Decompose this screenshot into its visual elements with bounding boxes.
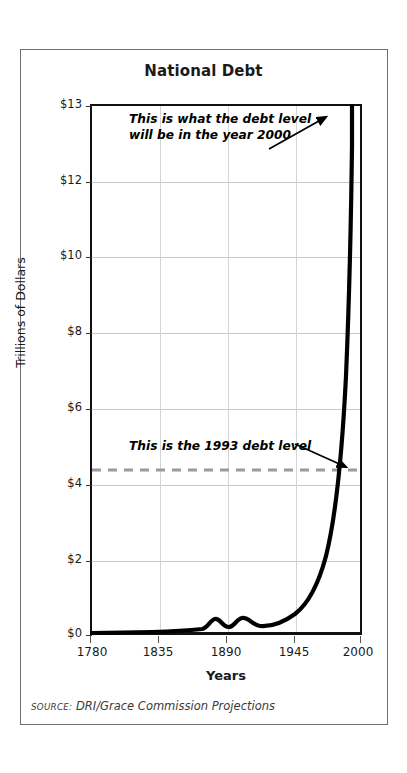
debt-curve — [92, 106, 364, 637]
xtick-mark-1890 — [226, 636, 227, 643]
source-label: SOURCE: — [31, 702, 72, 712]
annotation-level-1993: This is the 1993 debt level — [129, 439, 311, 453]
x-axis-tick-marks — [90, 636, 362, 644]
ytick-mark-6 — [86, 409, 92, 410]
y-axis-title: Trillions of Dollars — [13, 223, 28, 403]
annotation-level-1993-line1: This is the 1993 debt level — [129, 439, 311, 453]
ytick-label-10: $10 — [60, 248, 82, 262]
chart-title: National Debt — [0, 62, 407, 80]
y-axis-tick-labels: $13 $12 $10 $8 $6 $4 $2 $0 — [40, 104, 82, 635]
ytick-mark-2 — [86, 561, 92, 562]
annotation-projection-2000-line2: will be in the year 2000 — [129, 128, 311, 144]
xtick-mark-2000 — [360, 636, 361, 643]
source-note: SOURCE: DRI/Grace Commission Projections — [31, 699, 275, 713]
xtick-label-1780: 1780 — [77, 645, 108, 659]
plot-area: This is what the debt level will be in t… — [90, 104, 362, 635]
xtick-label-2000: 2000 — [343, 645, 374, 659]
ytick-mark-12 — [86, 182, 92, 183]
xtick-label-1835: 1835 — [143, 645, 174, 659]
xtick-label-1945: 1945 — [279, 645, 310, 659]
ytick-mark-13 — [86, 106, 92, 107]
ytick-label-2: $2 — [67, 552, 82, 566]
ytick-label-6: $6 — [67, 400, 82, 414]
ytick-mark-4 — [86, 485, 92, 486]
ytick-mark-8 — [86, 333, 92, 334]
xtick-label-1890: 1890 — [211, 645, 242, 659]
ytick-label-4: $4 — [67, 476, 82, 490]
ytick-label-0: $0 — [67, 626, 82, 640]
xtick-mark-1835 — [158, 636, 159, 643]
x-axis-title: Years — [90, 668, 362, 683]
ytick-mark-10 — [86, 257, 92, 258]
ytick-label-12: $12 — [60, 173, 82, 187]
ytick-label-8: $8 — [67, 324, 82, 338]
xtick-mark-1945 — [294, 636, 295, 643]
annotation-projection-2000-line1: This is what the debt level — [129, 112, 311, 128]
ytick-label-13: $13 — [60, 97, 82, 111]
x-axis-tick-labels: 1780 1835 1890 1945 2000 — [90, 645, 362, 665]
annotation-projection-2000: This is what the debt level will be in t… — [129, 112, 311, 143]
xtick-mark-1780 — [90, 636, 91, 643]
source-text: DRI/Grace Commission Projections — [76, 699, 275, 713]
